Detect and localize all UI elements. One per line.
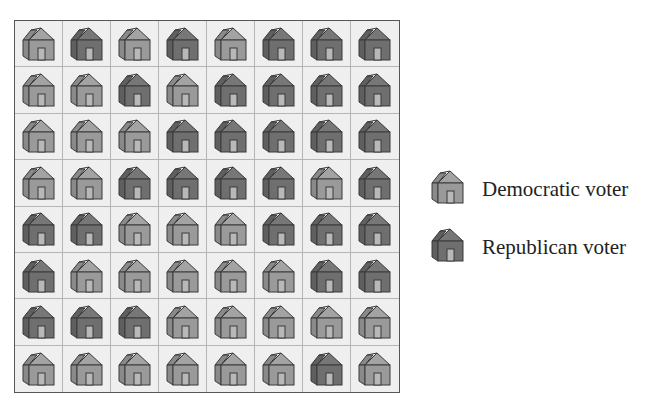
house-icon-republican bbox=[355, 116, 395, 156]
house-icon-democratic bbox=[259, 302, 299, 342]
house-icon-republican bbox=[67, 209, 107, 249]
house-icon-republican bbox=[307, 70, 347, 110]
grid-cell bbox=[111, 160, 159, 206]
house-icon-republican bbox=[307, 256, 347, 296]
grid-cell bbox=[255, 160, 303, 206]
house-icon-republican bbox=[19, 209, 59, 249]
house-icon-republican bbox=[211, 116, 251, 156]
house-icon-republican bbox=[115, 70, 155, 110]
grid-cell bbox=[207, 346, 255, 392]
house-icon-republican bbox=[211, 70, 251, 110]
grid-cell bbox=[303, 21, 351, 67]
house-icon-republican bbox=[163, 116, 203, 156]
house-icon-republican bbox=[307, 209, 347, 249]
house-icon-democratic bbox=[163, 349, 203, 389]
house-icon-democratic bbox=[19, 163, 59, 203]
grid-cell bbox=[15, 67, 63, 113]
house-icon-democratic bbox=[115, 116, 155, 156]
grid-cell bbox=[207, 160, 255, 206]
grid-cell bbox=[111, 253, 159, 299]
house-icon-democratic bbox=[163, 256, 203, 296]
house-icon-democratic bbox=[67, 349, 107, 389]
house-icon-democratic bbox=[19, 70, 59, 110]
house-icon-democratic bbox=[19, 116, 59, 156]
legend: Democratic voter Republican voter bbox=[428, 160, 628, 276]
grid-cell bbox=[351, 207, 399, 253]
house-icon-republican bbox=[355, 209, 395, 249]
grid-cell bbox=[63, 346, 111, 392]
grid-cell bbox=[303, 67, 351, 113]
house-icon-democratic bbox=[115, 256, 155, 296]
grid-cell bbox=[63, 207, 111, 253]
grid-cell bbox=[111, 207, 159, 253]
house-icon-democratic bbox=[163, 70, 203, 110]
grid-cell bbox=[15, 160, 63, 206]
grid-cell bbox=[159, 21, 207, 67]
legend-item-democratic: Democratic voter bbox=[428, 160, 628, 218]
grid-cell bbox=[63, 253, 111, 299]
house-icon-democratic bbox=[163, 209, 203, 249]
house-icon-democratic bbox=[19, 24, 59, 64]
grid-cell bbox=[351, 160, 399, 206]
grid-cell bbox=[15, 207, 63, 253]
house-icon-republican bbox=[355, 70, 395, 110]
grid-cell bbox=[207, 114, 255, 160]
house-icon-republican bbox=[19, 302, 59, 342]
grid-cell bbox=[159, 160, 207, 206]
grid-cell bbox=[15, 253, 63, 299]
house-icon-republican bbox=[211, 163, 251, 203]
grid-cell bbox=[159, 299, 207, 345]
grid-cell bbox=[351, 299, 399, 345]
house-icon-republican bbox=[19, 256, 59, 296]
house-icon-republican bbox=[307, 24, 347, 64]
grid-cell bbox=[255, 346, 303, 392]
grid-cell bbox=[111, 114, 159, 160]
voter-grid bbox=[14, 20, 400, 393]
house-icon-republican bbox=[67, 24, 107, 64]
house-icon-democratic bbox=[211, 256, 251, 296]
legend-label-republican: Republican voter bbox=[482, 235, 626, 260]
grid-cell bbox=[63, 114, 111, 160]
grid-cell bbox=[111, 21, 159, 67]
grid-cell bbox=[15, 299, 63, 345]
grid-cell bbox=[63, 21, 111, 67]
house-icon-republican bbox=[307, 349, 347, 389]
grid-cell bbox=[303, 160, 351, 206]
grid-cell bbox=[63, 67, 111, 113]
legend-label-democratic: Democratic voter bbox=[482, 177, 628, 202]
house-icon-republican bbox=[259, 163, 299, 203]
house-icon-republican bbox=[115, 302, 155, 342]
grid-cell bbox=[351, 67, 399, 113]
house-icon-democratic bbox=[67, 116, 107, 156]
house-icon-democratic bbox=[115, 209, 155, 249]
grid-cell bbox=[159, 67, 207, 113]
house-icon-democratic bbox=[211, 24, 251, 64]
grid-cell bbox=[255, 207, 303, 253]
grid-cell bbox=[63, 299, 111, 345]
house-icon-democratic bbox=[259, 256, 299, 296]
grid-cell bbox=[351, 114, 399, 160]
house-icon-democratic bbox=[211, 349, 251, 389]
house-icon-democratic bbox=[307, 163, 347, 203]
house-icon-democratic bbox=[163, 302, 203, 342]
grid-cell bbox=[207, 21, 255, 67]
house-icon-democratic bbox=[307, 302, 347, 342]
grid-cell bbox=[207, 67, 255, 113]
grid-cell bbox=[159, 253, 207, 299]
legend-item-republican: Republican voter bbox=[428, 218, 628, 276]
grid-cell bbox=[303, 253, 351, 299]
house-icon-republican bbox=[67, 302, 107, 342]
house-icon-republican bbox=[115, 163, 155, 203]
house-icon-democratic bbox=[19, 349, 59, 389]
house-icon-democratic bbox=[115, 24, 155, 64]
house-icon-democratic bbox=[115, 349, 155, 389]
grid-cell bbox=[303, 346, 351, 392]
grid-cell bbox=[303, 114, 351, 160]
grid-cell bbox=[255, 67, 303, 113]
grid-cell bbox=[255, 21, 303, 67]
house-icon-republican bbox=[259, 24, 299, 64]
grid-cell bbox=[111, 299, 159, 345]
house-icon-democratic bbox=[259, 349, 299, 389]
house-icon-democratic bbox=[67, 70, 107, 110]
house-icon-democratic bbox=[428, 167, 482, 211]
